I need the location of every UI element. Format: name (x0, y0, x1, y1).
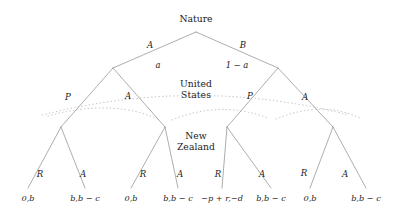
action-label-us-right-p: P (247, 92, 253, 102)
edge-nz1-r (28, 127, 61, 188)
edge-nz4-r (310, 127, 333, 188)
edge-us-left-a (113, 68, 165, 127)
payoff-7: 0,b (303, 194, 316, 203)
action-label-nature-b: B (240, 41, 246, 51)
probability-label-a: a (156, 61, 161, 70)
action-label-nz4-a: A (342, 170, 348, 180)
payoff-5: −p + r,−d (201, 194, 243, 203)
action-label-us-left-a: A (125, 92, 131, 102)
node-label-new-zealand-line1: New (185, 131, 207, 141)
action-label-nz3-r: R (215, 170, 221, 180)
action-label-nz2-a: A (177, 170, 183, 180)
payoff-2: b,b − c (70, 194, 100, 203)
action-label-us-right-a: A (302, 93, 308, 103)
edge-nz3-r (222, 127, 227, 188)
info-set-new-zealand-left (48, 108, 160, 120)
edge-nature-to-us-left (113, 32, 196, 68)
action-label-nz2-r: R (140, 170, 146, 180)
action-label-nz4-r: R (301, 169, 307, 179)
action-label-nz1-a: A (80, 170, 86, 180)
edge-nz2-r (131, 127, 165, 188)
payoff-3: 0,b (124, 194, 137, 203)
probability-label-one-minus-a: 1 − a (226, 61, 249, 70)
node-label-united-states-line1: United (180, 79, 212, 89)
node-label-new-zealand-line2: Zealand (177, 142, 215, 152)
payoff-4: b,b − c (163, 194, 193, 203)
action-label-nz1-r: R (37, 170, 43, 180)
node-label-nature: Nature (180, 14, 213, 24)
payoff-8: b,b − c (351, 194, 381, 203)
payoff-6: b,b − c (256, 194, 286, 203)
action-label-us-left-p: P (65, 93, 71, 103)
payoff-1: 0,b (21, 194, 34, 203)
game-tree-figure: Nature A B a 1 − a United States P A P A… (0, 0, 397, 216)
tree-edges-svg (0, 0, 397, 216)
info-set-new-zealand-mid (172, 109, 268, 120)
action-label-nz3-a: A (259, 170, 265, 180)
edge-nz4-a (333, 127, 366, 188)
node-label-united-states-line2: States (181, 90, 211, 100)
action-label-nature-a: A (147, 41, 153, 51)
